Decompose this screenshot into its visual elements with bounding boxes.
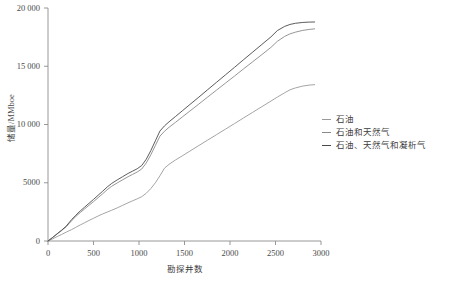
y-axis-tick-label: 15 000: [0, 62, 40, 71]
x-axis-tick-label: 3000: [301, 249, 341, 258]
series-line: [48, 85, 315, 241]
x-axis-tick-label: 2000: [210, 249, 250, 258]
axis-group: [44, 8, 321, 245]
y-axis-tick-label: 5000: [0, 178, 40, 187]
legend-line-icon: [322, 119, 331, 120]
y-axis-ticks: [44, 8, 48, 241]
x-axis-tick-label: 2500: [256, 249, 296, 258]
series-line: [48, 29, 315, 241]
chart-legend: 石油石油和天然气石油、天然气和凝析气: [322, 113, 448, 152]
reserves-vs-wells-chart: 0500010 00015 00020 000 0500100015002000…: [0, 0, 449, 281]
data-series-group: [48, 22, 315, 241]
legend-item-label: 石油和天然气: [336, 128, 390, 137]
y-axis-tick-label: 0: [0, 237, 40, 246]
legend-item[interactable]: 石油、天然气和凝析气: [322, 139, 448, 151]
legend-line-icon: [322, 132, 331, 133]
series-line: [48, 22, 315, 241]
x-axis-tick-label: 1000: [119, 249, 159, 258]
y-axis-tick-label: 20 000: [0, 4, 40, 13]
x-axis-tick-label: 500: [74, 249, 114, 258]
x-axis-ticks: [48, 241, 321, 245]
legend-item-label: 石油、天然气和凝析气: [336, 141, 426, 150]
x-axis-tick-label: 0: [28, 249, 68, 258]
y-axis-title: 储量/MMboe: [4, 86, 16, 150]
x-axis-tick-label: 1500: [165, 249, 205, 258]
x-axis-title: 勘探井数: [48, 262, 321, 274]
legend-line-icon: [322, 145, 331, 146]
legend-item[interactable]: 石油: [322, 113, 448, 125]
legend-item[interactable]: 石油和天然气: [322, 126, 448, 138]
legend-item-label: 石油: [336, 115, 354, 124]
